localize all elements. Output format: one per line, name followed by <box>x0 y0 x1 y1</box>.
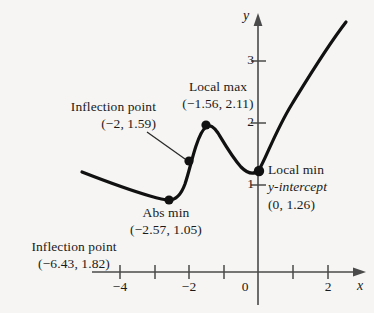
annotation-local-max: Local max (−1.56, 2.11) <box>158 78 278 113</box>
annotation-local-max-line2: (−1.56, 2.11) <box>158 95 278 112</box>
x-tick-label-2: 2 <box>315 279 341 295</box>
annotation-inflection-point-minus2-line1: Inflection point <box>8 98 156 115</box>
point-inflection <box>184 156 193 165</box>
annotation-local-min-line1: Local min <box>268 161 372 178</box>
x-tick-label-0: 0 <box>232 279 258 295</box>
y-tick-label-1: 1 <box>228 176 254 192</box>
x-axis-label: x <box>357 278 363 294</box>
y-axis-label: y <box>243 8 249 24</box>
point-local-max <box>201 120 210 129</box>
annotation-local-max-line1: Local max <box>158 78 278 95</box>
x-tick-label-minus4: −4 <box>107 279 133 295</box>
leader-line-inflection-point <box>147 132 185 159</box>
y-tick-label-2: 2 <box>228 114 254 130</box>
annotation-inflection-point-minus6-43-line1: Inflection point <box>4 238 144 255</box>
x-axis-arrow <box>353 268 366 277</box>
annotation-local-min-coords-line3: (0, 1.26) <box>268 196 372 213</box>
annotation-local-min-y-intercept: Local min y-intercept (0, 1.26) <box>268 161 372 213</box>
annotation-inflection-point-minus6-43-line2: (−6.43, 1.82) <box>4 255 144 272</box>
annotation-inflection-point-minus2-line2: (−2, 1.59) <box>8 115 156 132</box>
figure-graph-of-function: y x −4 −2 0 2 1 2 3 Inflection point (−2… <box>0 0 374 313</box>
y-axis-arrow <box>254 13 263 26</box>
point-local-min-y-intercept <box>254 166 264 176</box>
annotation-abs-min-line1: Abs min <box>96 204 236 221</box>
annotation-abs-min-line2: (−2.57, 1.05) <box>96 221 236 238</box>
annotation-y-intercept-line2: y-intercept <box>268 178 372 195</box>
annotation-abs-min: Abs min (−2.57, 1.05) <box>96 204 236 239</box>
y-tick-label-3: 3 <box>228 52 254 68</box>
annotation-inflection-point-minus2: Inflection point (−2, 1.59) <box>8 98 156 133</box>
x-tick-label-minus2: −2 <box>176 279 202 295</box>
annotation-inflection-point-minus6-43: Inflection point (−6.43, 1.82) <box>4 238 144 273</box>
